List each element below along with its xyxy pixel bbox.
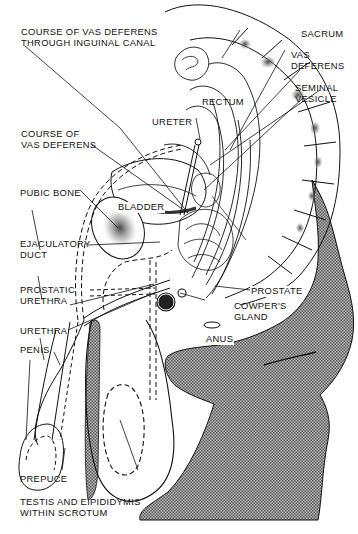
anus-drawing xyxy=(204,322,220,328)
rectum-drawing xyxy=(175,47,260,298)
anatomy-illustration xyxy=(0,0,358,534)
label-anus: ANUS xyxy=(205,334,234,345)
label-cowpers-gland: COWPER'S GLAND xyxy=(234,301,287,322)
anatomy-figure: COURSE OF VAS DEFERENS THROUGH INGUINAL … xyxy=(0,0,358,534)
label-prostate: PROSTATE xyxy=(250,286,304,297)
label-vas-deferens: VAS DEFERENS xyxy=(291,50,344,71)
label-pubic-bone: PUBIC BONE xyxy=(20,188,81,199)
label-sacrum: SACRUM xyxy=(301,29,343,40)
label-ureter: URETER xyxy=(151,117,193,128)
label-prepuce: PREPUCE xyxy=(20,474,67,485)
label-urethra: URETHRA xyxy=(20,326,67,337)
label-testis: TESTIS AND EIPIDIDYMIS WITHIN SCROTUM xyxy=(20,497,141,518)
label-seminal-vesicle: SEMINAL VESICLE xyxy=(295,83,338,104)
label-ejaculatory-duct: EJACULATORY DUCT xyxy=(20,239,91,260)
label-course-vas: COURSE OF VAS DEFERENS xyxy=(21,129,96,150)
label-rectum: RECTUM xyxy=(202,97,244,108)
label-vas-inguinal: COURSE OF VAS DEFERENS THROUGH INGUINAL … xyxy=(21,27,158,48)
label-penis: PENIS xyxy=(20,345,50,356)
scrotum-drawing xyxy=(86,289,186,501)
label-prostatic-urethra: PROSTATIC URETHRA xyxy=(20,285,75,306)
shaded-buttock xyxy=(140,180,354,520)
label-bladder: BLADDER xyxy=(117,202,165,213)
